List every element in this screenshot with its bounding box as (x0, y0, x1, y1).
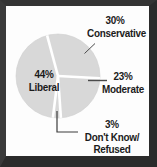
pie-label-dontknow-name-line2: Refused (79, 143, 146, 156)
pie-label-liberal-name: Liberal (22, 81, 65, 94)
pie-label-conservative-percent: 30% (87, 14, 143, 27)
pie-label-liberal: 44% Liberal (22, 68, 65, 93)
pie-label-moderate: 23% Moderate (101, 70, 146, 95)
pie-label-moderate-name: Moderate (101, 83, 146, 96)
pie-chart-plot-area: 30% Conservative 23% Moderate 3% Don't K… (6, 6, 149, 156)
pie-label-dontknow-name: Don't Know/ (79, 131, 146, 144)
pie-label-dontknow-percent: 3% (79, 118, 146, 131)
pie-label-conservative: 30% Conservative (87, 14, 143, 39)
pie-label-conservative-name: Conservative (87, 27, 143, 40)
pie-label-moderate-percent: 23% (101, 70, 146, 83)
chart-frame: 30% Conservative 23% Moderate 3% Don't K… (0, 0, 157, 167)
pie-label-dontknow: 3% Don't Know/ Refused (79, 118, 146, 156)
pie-label-liberal-percent: 44% (22, 68, 65, 81)
